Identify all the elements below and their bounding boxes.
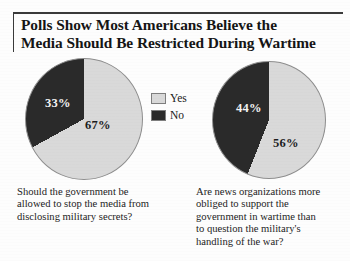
legend-label-yes: Yes [170,93,187,104]
title-block: Polls Show Most Americans Believe the Me… [13,12,343,52]
pie-slices-right [212,61,326,179]
chart-caption-left: Should the government be allowed to stop… [17,186,177,223]
legend-item-no: No [151,109,197,122]
legend-swatch-yes-icon [151,93,166,104]
legend-label-no: No [170,110,184,121]
pie-chart-left: 33% 67% [25,58,143,180]
legend: Yes No [151,92,197,126]
slice-label-no-right: 44% [236,101,262,116]
slice-label-no-left: 33% [45,96,71,111]
slice-label-yes-left: 67% [85,118,111,133]
legend-swatch-no-icon [151,110,166,121]
slice-label-yes-right: 56% [273,136,299,151]
infographic-page: Polls Show Most Americans Believe the Me… [0,0,350,261]
pie-slices-left [25,58,143,180]
pie-chart-right: 44% 56% [212,61,326,179]
legend-item-yes: Yes [151,92,197,105]
chart-caption-right: Are news organizations more obliged to s… [196,186,348,248]
page-title: Polls Show Most Americans Believe the Me… [21,16,343,51]
